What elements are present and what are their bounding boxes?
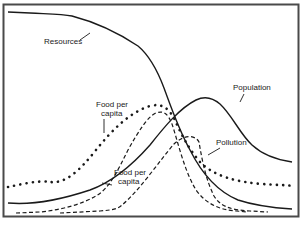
resources-label: Resources bbox=[44, 37, 82, 46]
food-per-capita-lower-label-line1: Food per bbox=[114, 168, 146, 177]
food-per-capita-lower-label-line2: capita bbox=[118, 177, 140, 186]
pollution-pointer bbox=[208, 148, 220, 155]
food-per-capita-upper-label-line1: Food per bbox=[96, 100, 128, 109]
population-curve bbox=[8, 98, 292, 204]
pollution-curve bbox=[60, 137, 268, 213]
food-per-capita-upper-label-line2: capita bbox=[101, 109, 123, 118]
population-pointer bbox=[240, 94, 244, 102]
limits-to-growth-chart: Resources Population Food per capita Foo… bbox=[0, 0, 302, 225]
population-label: Population bbox=[233, 83, 271, 92]
pollution-label: Pollution bbox=[216, 138, 247, 147]
food-per-capita-dotted-curve bbox=[8, 105, 294, 187]
